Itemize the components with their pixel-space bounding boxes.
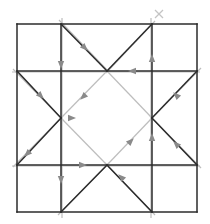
arrowhead-icon xyxy=(116,172,126,182)
x-marker-icon xyxy=(155,10,163,18)
arrowhead-icon xyxy=(128,68,136,74)
light-line xyxy=(61,118,107,165)
dark-line xyxy=(107,165,152,212)
light-guide-lines xyxy=(12,18,201,218)
arrowhead-icon xyxy=(58,61,64,69)
crease-pattern-diagram xyxy=(0,0,210,224)
light-line xyxy=(107,71,152,118)
dark-line xyxy=(61,165,107,212)
dark-line xyxy=(152,118,197,165)
arrowhead-icon xyxy=(126,136,136,146)
arrowhead-icon xyxy=(78,92,88,102)
dark-line xyxy=(17,118,61,165)
markers xyxy=(155,10,163,18)
arrowhead-icon xyxy=(68,115,76,121)
dark-line xyxy=(107,24,152,71)
arrowhead-icon xyxy=(171,90,181,100)
arrowhead-icon xyxy=(149,54,155,62)
arrowhead-icon xyxy=(79,162,87,168)
dark-crease-lines xyxy=(17,24,197,212)
arrowhead-icon xyxy=(58,176,64,184)
arrowhead-icon xyxy=(149,133,155,141)
